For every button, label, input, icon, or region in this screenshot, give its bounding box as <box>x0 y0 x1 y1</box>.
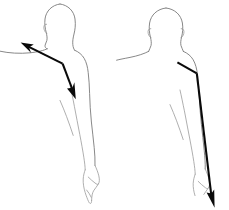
left-figure-thumb-line <box>88 177 98 184</box>
right-figure-hand-outline <box>193 174 195 195</box>
left-figure-head-right-outline <box>60 4 75 50</box>
left-figure-head-outline <box>45 4 60 49</box>
left-figure-right-shoulder-arm-outer <box>75 50 95 165</box>
right-figure-thumb-line <box>198 181 208 188</box>
right-arrow-shaft-lower-segment <box>197 73 212 196</box>
right-figure <box>117 8 215 208</box>
left-figure-torso-contour <box>60 100 73 135</box>
left-figure-inner-arm-line <box>70 86 85 170</box>
bidirectional-shoulder-arrow <box>21 43 76 100</box>
right-figure-inner-arm-line <box>180 90 195 174</box>
left-figure-hand-outline <box>83 170 91 204</box>
left-figure <box>0 4 99 203</box>
left-figure-finger-detail-line <box>87 190 92 197</box>
right-arrow-shaft-upper-segment <box>177 62 196 73</box>
right-figure-left-shoulder-line <box>117 51 149 60</box>
right-figure-head-outline <box>149 8 166 51</box>
arrow-shaft-upper-segment <box>26 46 62 64</box>
right-figure-head-right-outline <box>166 8 183 51</box>
right-figure-torso-contour <box>170 105 183 140</box>
illustration-canvas: Anatomical arm movement diagram <box>0 0 229 210</box>
arrow-shaft-lower-segment <box>63 64 73 90</box>
